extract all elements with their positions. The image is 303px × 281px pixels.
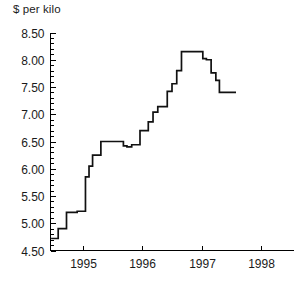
x-axis-tick-labels: 1995199619971998 [70, 257, 275, 271]
svg-text:7.50: 7.50 [21, 81, 45, 95]
y-axis-tick-labels: 4.505.005.506.006.507.007.508.008.50 [21, 27, 45, 259]
price-series-line [51, 52, 236, 239]
svg-text:8.50: 8.50 [21, 27, 45, 41]
svg-text:8.00: 8.00 [21, 54, 45, 68]
chart-canvas: 4.505.005.506.006.507.007.508.008.50 199… [0, 0, 303, 281]
price-chart: $ per kilo 4.505.005.506.006.507.007.508… [0, 0, 303, 281]
svg-text:1996: 1996 [129, 257, 156, 271]
svg-text:6.00: 6.00 [21, 163, 45, 177]
axis-spine [51, 33, 294, 251]
svg-text:1995: 1995 [70, 257, 97, 271]
svg-text:7.00: 7.00 [21, 108, 45, 122]
svg-text:1997: 1997 [189, 257, 216, 271]
svg-text:5.00: 5.00 [21, 217, 45, 231]
svg-text:1998: 1998 [248, 257, 275, 271]
svg-text:4.50: 4.50 [21, 245, 45, 259]
svg-text:6.50: 6.50 [21, 136, 45, 150]
svg-text:5.50: 5.50 [21, 190, 45, 204]
